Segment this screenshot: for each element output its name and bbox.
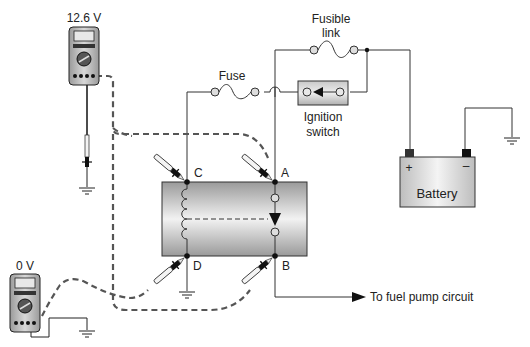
meter-display	[15, 278, 35, 288]
arrow-right-icon	[352, 292, 366, 302]
ground-icon	[504, 138, 520, 144]
battery-negative-sign: –	[463, 159, 470, 173]
fuse-label: Fuse	[219, 69, 246, 83]
meter-bottom-reading: 0 V	[16, 259, 34, 273]
relay: C A D B	[162, 166, 307, 273]
terminal-b-label: B	[282, 259, 290, 273]
terminal-b	[272, 253, 278, 259]
probe-b	[240, 254, 276, 286]
ground-icon	[179, 292, 195, 298]
ground-icon	[79, 188, 95, 194]
terminal-c	[184, 179, 190, 185]
terminal-a	[272, 179, 278, 185]
ignition-switch-label-line1: Ignition	[304, 110, 343, 124]
ignition-switch-label-line2: switch	[306, 125, 339, 139]
terminal-d-label: D	[193, 259, 202, 273]
multimeter-top	[69, 27, 99, 85]
ignition-switch: Ignition switch	[298, 81, 348, 139]
multimeter-bottom	[10, 274, 40, 332]
meter-top-reading: 12.6 V	[67, 11, 102, 25]
terminal-d	[184, 253, 190, 259]
ground-icon	[79, 331, 95, 337]
probe-a	[240, 152, 276, 184]
battery-positive-sign: +	[405, 161, 412, 175]
junction-node	[365, 48, 369, 52]
battery: + – Battery	[400, 149, 475, 207]
fusible-link-label-line1: Fusible	[312, 12, 351, 26]
fusible-link-label-line2: link	[322, 26, 341, 40]
meter-display	[74, 31, 94, 41]
probe-d	[152, 254, 188, 286]
ground-probe	[82, 135, 92, 187]
fuse: Fuse	[211, 69, 259, 99]
fuel-pump-label: To fuel pump circuit	[370, 290, 474, 304]
terminal-a-label: A	[281, 166, 289, 180]
fuel-pump-output: To fuel pump circuit	[352, 290, 474, 304]
fusible-link: Fusible link	[310, 12, 358, 58]
terminal-c-label: C	[194, 166, 203, 180]
probe-c	[152, 152, 188, 184]
battery-label: Battery	[416, 186, 458, 201]
